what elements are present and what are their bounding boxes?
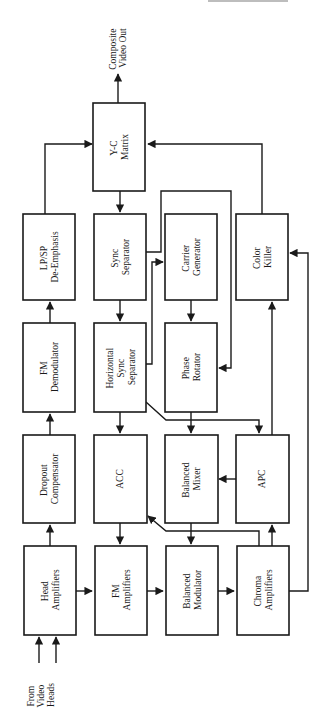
label-line: Color (252, 247, 262, 269)
label-line: Carrier (181, 244, 191, 272)
label-line: Sync (110, 249, 120, 268)
label-line: Demodulator (50, 341, 60, 392)
label-line: Dropout (39, 464, 49, 496)
label-line: Video (36, 685, 46, 708)
label-line: Chroma (253, 575, 263, 606)
svg-text:Phase Rotator: Phase Rotator (181, 352, 202, 381)
label-line: Horizontal (105, 348, 115, 389)
label-line: From (26, 685, 36, 706)
svg-text:Balanced Modulator: Balanced Modulator (182, 569, 203, 610)
label-line: Sync (116, 359, 126, 378)
label-line: Y-C (109, 141, 119, 156)
block-fm-demodulator: FM Demodulator (23, 323, 75, 412)
label-line: Composite (108, 29, 118, 70)
block-acc: ACC (94, 435, 147, 523)
label-line: APC (257, 470, 267, 488)
label-line: Balanced (181, 462, 191, 498)
svg-text:Carrier Generator: Carrier Generator (181, 237, 202, 276)
label-line: Separator (121, 238, 131, 275)
label-line: LP/SP (39, 246, 49, 270)
svg-text:Color Killer: Color Killer (252, 245, 273, 269)
block-head-amplifiers: Head Amplifiers (24, 546, 76, 635)
block-apc: APC (236, 435, 289, 523)
label-line: FM (39, 361, 49, 375)
label-line: Amplifiers (122, 569, 132, 610)
output-label-composite-video-out: Composite Video Out (108, 26, 128, 70)
svg-text:Composite Video Out: Composite Video Out (108, 26, 128, 70)
label-line: Modulator (193, 569, 203, 610)
label-line: Generator (192, 237, 202, 276)
wire-chroma-colorkiller (288, 253, 308, 591)
label-line: Amplifiers (264, 569, 274, 610)
block-fm-amplifiers: FM Amplifiers (95, 546, 147, 635)
wire-lpsp-ycmatrix (45, 144, 92, 214)
svg-text:Chroma Amplifiers: Chroma Amplifiers (253, 569, 274, 610)
block-balanced-mixer: Balanced Mixer (165, 435, 218, 523)
label-line: Balanced (182, 573, 192, 609)
wire-hsync-carrier (146, 262, 163, 364)
label-line: ACC (115, 469, 125, 489)
block-yc-matrix: Y-C Matrix (93, 103, 145, 191)
block-sync-separator: Sync Separator (94, 214, 146, 300)
svg-text:ACC: ACC (115, 469, 125, 489)
block-lpsp-de-emphasis: LP/SP De-Emphasis (23, 214, 75, 300)
label-line: Head (40, 581, 50, 601)
label-line: Compensator (50, 453, 60, 504)
block-color-killer: Color Killer (236, 214, 288, 300)
label-line: FM (111, 584, 121, 598)
block-balanced-modulator: Balanced Modulator (166, 546, 218, 635)
block-chroma-amplifiers: Chroma Amplifiers (237, 546, 289, 635)
label-line: Rotator (192, 352, 202, 381)
block-carrier-generator: Carrier Generator (165, 214, 217, 300)
label-line: Heads (46, 683, 56, 707)
label-line: Amplifiers (51, 569, 61, 610)
block-diagram: LP/SP De-Emphasis FM Demodulator Dropout… (0, 0, 326, 713)
label-line: Killer (263, 245, 273, 268)
label-line: Video Out (118, 28, 128, 68)
block-horizontal-sync-separator: Horizontal Sync Separator (94, 323, 146, 412)
label-line: De-Emphasis (50, 231, 60, 282)
label-line: Mixer (192, 467, 202, 491)
label-line: Phase (181, 357, 191, 379)
block-phase-rotator: Phase Rotator (165, 323, 217, 412)
wire-colorkiller-ycmatrix (148, 144, 262, 214)
input-label-from-video-heads: From Video Heads (26, 682, 56, 707)
svg-text:From Video Heads: From Video Heads (26, 682, 56, 707)
label-line: Matrix (120, 134, 130, 160)
block-dropout-compensator: Dropout Compensator (23, 435, 75, 523)
svg-text:APC: APC (257, 470, 267, 488)
label-line: Separator (127, 348, 137, 385)
